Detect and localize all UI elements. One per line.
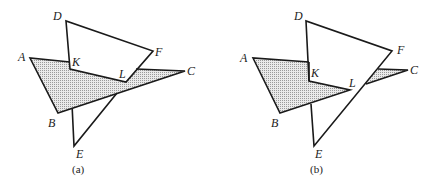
caption-b: (b) (310, 163, 323, 176)
label-b-b: B (271, 116, 279, 130)
label-a-b: A (239, 51, 248, 65)
label-f-a: F (154, 45, 163, 59)
label-e-b: E (314, 147, 323, 161)
diagram-canvas: D A K F L C B E (a) D A K F L C B E (b) (0, 0, 433, 182)
figure-b: D A K F L C B E (b) (239, 9, 419, 176)
label-k-b: K (310, 66, 320, 80)
label-d-a: D (52, 9, 62, 23)
label-c-b: C (410, 63, 419, 77)
region-abkl-hatched-b (253, 58, 350, 113)
label-c-a: C (187, 64, 196, 78)
label-b-a: B (48, 116, 56, 130)
figure-a: D A K F L C B E (a) (17, 9, 196, 176)
label-l-b: L (348, 76, 356, 90)
label-d-b: D (293, 9, 303, 23)
label-a-a: A (17, 50, 26, 64)
label-e-a: E (75, 147, 84, 161)
caption-a: (a) (72, 163, 85, 176)
label-f-b: F (396, 43, 405, 57)
label-k-a: K (71, 55, 81, 69)
label-l-a: L (118, 67, 126, 81)
